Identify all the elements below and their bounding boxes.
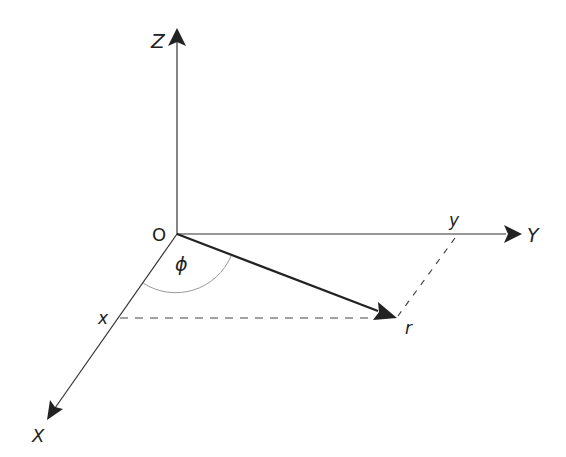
- y-axis: [177, 225, 522, 243]
- y-component-label: y: [448, 210, 460, 230]
- x-axis: [47, 234, 177, 420]
- phi-label: ϕ: [175, 253, 188, 275]
- origin-label: O: [152, 224, 166, 245]
- y-arrow-icon: [504, 225, 522, 243]
- r-vector: [177, 234, 397, 320]
- x-arrow-icon: [47, 400, 63, 420]
- y-axis-label: Y: [527, 224, 540, 246]
- coordinate-diagram: Z Y X O ϕ x y r: [0, 0, 566, 457]
- z-axis-label: Z: [150, 29, 166, 53]
- z-axis: [168, 28, 186, 234]
- y-projection-dashed-line: [398, 238, 455, 316]
- x-component-label: x: [97, 308, 109, 328]
- vector-r-label: r: [405, 318, 413, 338]
- x-axis-label: X: [31, 425, 45, 446]
